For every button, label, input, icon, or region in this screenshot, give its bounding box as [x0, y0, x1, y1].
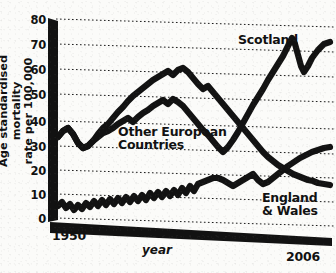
series-label-england-wales-line2: & Wales [262, 205, 318, 218]
series-label-england-wales: England & Wales [262, 192, 318, 218]
y-tick-label-0: 0 [16, 212, 46, 226]
y-tick-label-70: 70 [16, 38, 46, 52]
y-tick-label-40: 40 [16, 115, 46, 129]
gridline-50 [56, 94, 334, 102]
series-label-other-european-line2: Countries [118, 139, 227, 152]
series-label-scotland: Scotland [238, 34, 298, 47]
y-tick-label-30: 30 [16, 140, 46, 154]
y-tick-label-60: 60 [16, 63, 46, 77]
y-tick-label-80: 80 [16, 13, 46, 27]
x-axis-bar [50, 222, 332, 246]
y-tick-label-10: 10 [16, 188, 46, 202]
y-tick-label-20: 20 [16, 164, 46, 178]
x-axis-title: year [142, 243, 172, 257]
chart-figure: Age standardised mortality rate per 100,… [0, 0, 336, 273]
y-axis-bar [48, 18, 58, 222]
series-label-other-european: Other European Countries [118, 126, 227, 152]
x-tick-label-1950: 1950 [52, 228, 86, 243]
x-tick-label-2006: 2006 [286, 249, 320, 264]
y-tick-label-50: 50 [16, 88, 46, 102]
gridline-80 [56, 19, 334, 27]
